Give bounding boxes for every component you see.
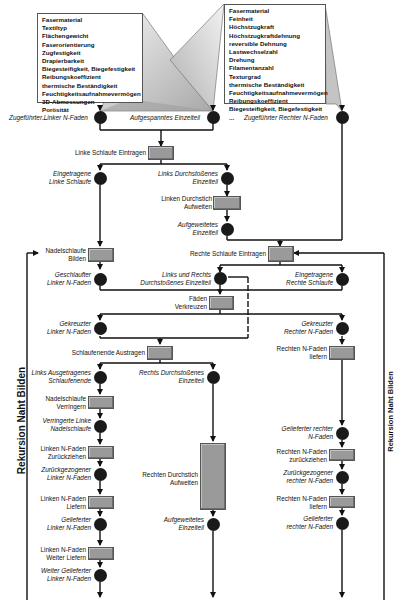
attr-item: thermische Beständigkeit [229,81,321,89]
label-proc-right-deliver: Rechten N-Fadenliefern [277,345,327,361]
attr-item: 3D-Abmessungen [42,98,138,106]
state-widened [221,223,234,236]
state-crossed-right [336,322,349,335]
process-needle-loop [88,248,114,262]
process-withdraw-left [88,446,114,459]
process-cross [209,296,234,310]
attr-item: Feuchtigkeitsaufnahmevermögen [42,90,138,98]
label-proc-left-loop: Linke Schlaufe Eintragen [75,149,146,157]
attr-item: thermische Beständigkeit [42,82,138,90]
label-delivered-right-a: Gelieferter rechterN-Faden [282,425,334,441]
process-reduce [88,396,114,409]
flow-diagram: Fasermaterial Textiltyp Flächengewicht F… [0,0,413,608]
label-further-delivered: Weiter GelieferterLinker N-Faden [41,567,91,583]
attr-item: Zugfestigkeit [42,49,138,57]
attr-item: Feuchtigkeitsaufnahmevermögen [229,89,321,97]
textile-attributes-box: Fasermaterial Textiltyp Flächengewicht F… [37,13,143,103]
attr-item: Faserorientierung [42,41,138,49]
state-left-thread [94,111,107,124]
label-proc-withdraw-left: Linken N-FadenZurückziehen [41,445,86,461]
process-deliver-right-2 [329,496,355,508]
attr-item: Drapierbarkeit [42,57,138,65]
attr-item: Feinheit [229,15,321,23]
state-looped-thread [94,273,107,286]
label-proc-deliver-right-2: Rechten N-Fadenliefern [277,495,327,511]
state-further-delivered [94,569,107,582]
state-lr-pierced [214,272,227,285]
label-left-loop-end: Links AusgetragenesSchlaufenende [32,369,91,385]
state-delivered-right-b [336,517,349,530]
label-recursion-right: Rekursion Naht Bilden [386,367,395,457]
label-proc-right-loop: Rechte Schlaufe Eintragen [190,250,266,258]
state-clamped-part [207,111,220,124]
process-left-loop [148,146,174,160]
label-lr-pierced: Links und RechtsDurchstoßenes Einzelteil [140,271,211,287]
process-right-loop [268,246,294,262]
label-left-loop: EingetrageneLinke Schlaufe [49,170,91,186]
label-delivered-right-b: Gelieferterrechter N-Faden [286,515,333,531]
label-reduced-loop: Verringerte LinkeNadelschlaufe [43,417,91,433]
state-withdrawn-left [94,468,107,481]
state-left-loop [94,172,107,185]
attr-item: Reibungskoeffizient [42,73,138,81]
label-proc-withdraw-right: Rechten N-Fadenzurückziehen [277,448,327,464]
label-crossed-right: GekreuzterRechter N-Faden [284,320,333,336]
thread-attributes-box: Fasermaterial Feinheit Höchstzugkraft Hö… [224,4,326,104]
attr-item: Biegesteifigkeit, Biegefestigkeit [229,105,321,113]
state-widened-right [207,518,220,531]
process-widen-right [200,443,226,510]
state-right-thread [336,111,349,124]
attr-item: Flächengewicht [42,32,138,40]
label-delivered-left: GelieferterLinker N-Faden [47,516,91,532]
state-left-pierced [221,172,234,185]
label-proc-deliver-left: Linken N-FadenLiefern [41,495,86,511]
state-withdrawn-right [336,471,349,484]
label-withdrawn-right: Zurückgezogenerrechter N-Faden [283,469,333,485]
label-proc-needle-loop: NadelschlaufeBilden [45,247,86,263]
process-loop-end [147,346,173,360]
state-delivered-left [94,518,107,531]
attr-item: Filamentanzahl [229,64,321,72]
label-right-pierced: Rechts DurchstoßenesEinzelteil [139,369,204,385]
attr-item: Fasermaterial [42,16,138,24]
label-proc-widen-left: Linken DurchstichAufweiten [161,195,212,211]
attr-item: Fasermaterial [229,7,321,15]
label-proc-widen-right: Rechten DurchstichAufweiten [142,471,198,487]
attr-item: Drehung [229,56,321,64]
process-right-deliver [329,346,355,360]
label-widened: AufgeweitetesEinzelteil [178,221,218,237]
label-right-thread: Zugeführter Rechter N-Faden [244,114,328,122]
process-deliver-more [88,547,114,560]
attr-item: Reibungskoeffizient [229,97,321,105]
state-reduced-loop [94,420,107,433]
attr-item: Höchstzugkraftdehnung [229,32,321,40]
label-left-pierced: Links DurchstoßenesEinzelteil [158,170,218,186]
process-withdraw-right [329,449,355,461]
attr-item: Biegesteifigkeit, Biegefestigkeit [42,65,138,73]
label-right-loop: EingetrageneRechte Schlaufe [286,271,333,287]
attr-item: Höchstzugkraft [229,23,321,31]
label-proc-deliver-more: Linken N-FadenWeiter Liefern [41,546,86,562]
state-delivered-right-a [336,427,349,440]
label-recursion-left: Rekursion Naht Bilden [16,361,27,481]
label-proc-reduce: NadelschlaufeVerringern [45,395,86,411]
label-left-thread: Zugeführter Linker N-Faden [9,114,88,122]
attr-item: Lastwechselzahl [229,48,321,56]
state-left-loop-end [94,371,107,384]
attr-item: Textiltyp [42,24,138,32]
label-clamped-part: Aufgespanntes Einzelteil [130,114,200,122]
state-right-loop [336,273,349,286]
label-withdrawn-left: ZurückgezogenerLinker N-Faden [41,466,91,482]
label-crossed-left: GekreuzterLinker N-Faden [47,320,91,336]
attr-item: reversible Dehnung [229,40,321,48]
state-crossed-left [94,322,107,335]
label-widened-right: AufgeweitetesEinzelteil [164,516,204,532]
label-looped-thread: GeschlaufterLinker N-Faden [47,271,91,287]
label-proc-cross: FädenVerkreuzen [175,295,207,311]
process-widen-left [213,196,241,210]
state-right-pierced [207,371,220,384]
attr-item: Texturgrad [229,73,321,81]
label-proc-loop-end: Schlaufenende Austragen [72,349,145,357]
process-deliver-left [88,496,114,509]
